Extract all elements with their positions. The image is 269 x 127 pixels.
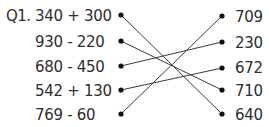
left-dot-icon[interactable]: [118, 38, 123, 43]
left-dot-icon[interactable]: [118, 12, 123, 17]
matching-lines: [0, 0, 269, 127]
right-dot-icon[interactable]: [219, 87, 224, 92]
connection-line: [121, 68, 222, 90]
right-dot-icon[interactable]: [219, 13, 224, 18]
left-dot-icon[interactable]: [118, 111, 123, 116]
right-dot-icon[interactable]: [219, 65, 224, 70]
right-dot-icon[interactable]: [219, 39, 224, 44]
left-dot-icon[interactable]: [118, 87, 123, 92]
right-dot-icon[interactable]: [219, 111, 224, 116]
connection-line: [121, 42, 222, 66]
left-dot-icon[interactable]: [118, 63, 123, 68]
